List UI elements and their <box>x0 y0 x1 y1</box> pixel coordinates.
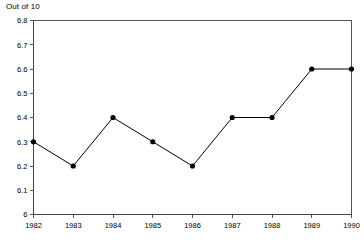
y-tick-label: 6 <box>23 210 27 219</box>
x-tick-label: 1984 <box>105 221 122 230</box>
x-tick-label: 1989 <box>303 221 320 230</box>
x-tick-label: 1988 <box>264 221 281 230</box>
data-point <box>349 66 354 71</box>
plot-frame <box>34 21 352 215</box>
data-markers <box>31 66 354 168</box>
data-point <box>71 163 76 168</box>
x-tick-label: 1982 <box>25 221 42 230</box>
data-point <box>150 139 155 144</box>
plot-area: 66.16.26.36.46.56.66.76.8 19821983198419… <box>0 0 364 243</box>
y-tick-label: 6.2 <box>17 162 27 171</box>
x-tick-label: 1985 <box>144 221 161 230</box>
data-point <box>190 163 195 168</box>
data-point <box>31 139 36 144</box>
y-tick-label: 6.6 <box>17 65 27 74</box>
data-point <box>309 66 314 71</box>
y-tick-label: 6.1 <box>17 186 27 195</box>
x-axis-ticks: 198219831984198519861987198819891990 <box>25 215 360 231</box>
y-tick-label: 6.4 <box>17 113 27 122</box>
y-axis-ticks: 66.16.26.36.46.56.66.76.8 <box>17 16 33 219</box>
data-series <box>34 69 352 166</box>
y-tick-label: 6.7 <box>17 41 27 50</box>
data-point <box>110 115 115 120</box>
series-line <box>34 69 352 166</box>
y-tick-label: 6.3 <box>17 138 27 147</box>
data-point <box>230 115 235 120</box>
x-tick-label: 1987 <box>224 221 241 230</box>
x-tick-label: 1986 <box>184 221 201 230</box>
y-tick-label: 6.5 <box>17 89 27 98</box>
line-chart: Out of 10 66.16.26.36.46.56.66.76.8 1982… <box>0 0 364 243</box>
x-tick-label: 1990 <box>343 221 360 230</box>
y-tick-label: 6.8 <box>17 16 27 25</box>
y-axis-title: Out of 10 <box>6 2 40 11</box>
x-tick-label: 1983 <box>65 221 82 230</box>
data-point <box>269 115 274 120</box>
